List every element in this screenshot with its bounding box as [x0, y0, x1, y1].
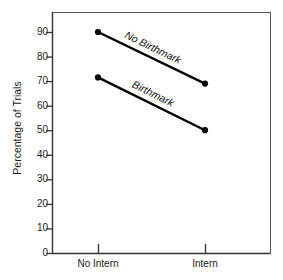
data-point-marker [95, 74, 101, 80]
y-axis-ticks [46, 33, 53, 254]
x-axis-ticks [99, 244, 206, 253]
data-point-marker [95, 29, 101, 35]
data-point-marker [202, 127, 208, 133]
data-point-marker [202, 80, 208, 86]
plot-area: No BirthmarkBirthmark [0, 0, 283, 280]
chart-figure: Percentage of Trials 0102030405060708090… [0, 0, 283, 280]
